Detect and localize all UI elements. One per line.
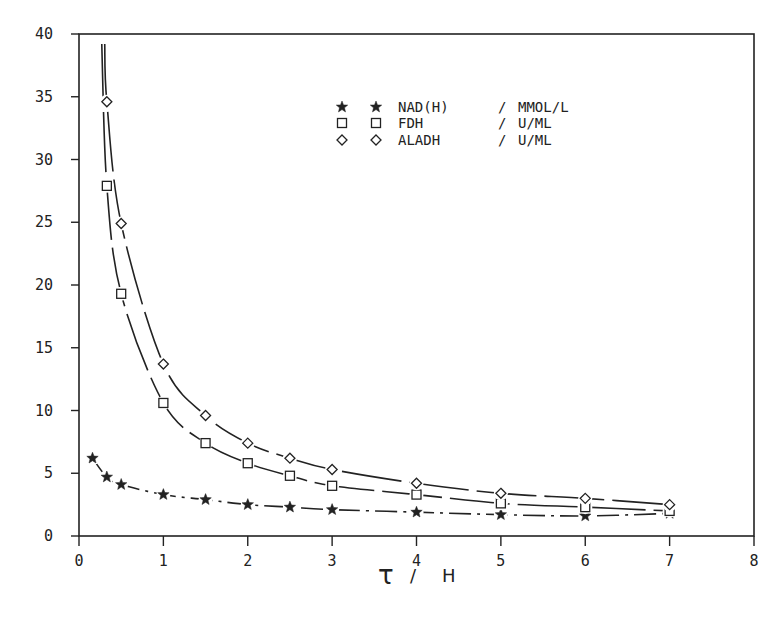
data-point-fdh [328, 481, 337, 490]
legend-separator: / [498, 115, 506, 131]
data-point-fdh [412, 490, 421, 499]
x-axis-ticks: 012345678 [74, 536, 758, 570]
data-point-fdh [117, 289, 126, 298]
legend-separator: / [498, 132, 506, 148]
y-tick-label: 5 [44, 464, 53, 482]
legend-label: FDH [398, 115, 423, 131]
y-tick-label: 15 [35, 339, 53, 357]
series-line-aladh [105, 44, 670, 505]
legend-marker-shape [370, 101, 381, 112]
legend-marker-square-icon [338, 119, 347, 128]
data-point-fdh [285, 471, 294, 480]
y-tick-label: 10 [35, 402, 53, 420]
data-point-fdh [159, 398, 168, 407]
y-tick-label: 40 [35, 25, 53, 43]
legend: NAD(H) / MMOL/L FDH / U/ML ALADH / U/ML [336, 99, 568, 148]
legend-marker-star-icon [336, 101, 347, 112]
x-axis-title-slash: / [410, 565, 417, 586]
legend-marker-shape [372, 119, 381, 128]
x-tick-label: 6 [581, 552, 590, 570]
legend-unit: U/ML [518, 132, 552, 148]
legend-marker-diamond-icon [371, 135, 381, 145]
legend-marker-diamond-icon [337, 135, 347, 145]
x-axis-title-unit: H [442, 565, 456, 586]
legend-marker-shape [337, 135, 347, 145]
legend-unit: U/ML [518, 115, 552, 131]
chart: 012345678 0510152025303540 NAD(H) / MMOL… [0, 0, 783, 626]
legend-marker-shape [371, 135, 381, 145]
legend-item-fdh: FDH / U/ML [338, 115, 552, 131]
y-tick-label: 30 [35, 151, 53, 169]
x-tick-label: 7 [665, 552, 674, 570]
legend-separator: / [498, 99, 506, 115]
legend-marker-shape [338, 119, 347, 128]
y-tick-label: 20 [35, 276, 53, 294]
y-tick-label: 25 [35, 213, 53, 231]
y-axis-ticks: 0510152025303540 [35, 25, 79, 545]
x-axis-title-symbol: τ [378, 560, 394, 590]
y-tick-label: 0 [44, 527, 53, 545]
y-tick-label: 35 [35, 88, 53, 106]
x-tick-label: 5 [496, 552, 505, 570]
legend-item-nadh: NAD(H) / MMOL/L [336, 99, 568, 115]
series-line-fdh [102, 44, 670, 511]
data-point-fdh [102, 181, 111, 190]
x-tick-label: 2 [243, 552, 252, 570]
legend-marker-star-icon [370, 101, 381, 112]
x-tick-label: 0 [74, 552, 83, 570]
data-point-fdh [201, 439, 210, 448]
legend-label: ALADH [398, 132, 440, 148]
data-point-fdh [243, 459, 252, 468]
legend-marker-square-icon [372, 119, 381, 128]
legend-unit: MMOL/L [518, 99, 569, 115]
legend-marker-shape [336, 101, 347, 112]
series-curves [93, 44, 670, 516]
x-tick-label: 3 [328, 552, 337, 570]
x-tick-label: 8 [749, 552, 758, 570]
legend-label: NAD(H) [398, 99, 449, 115]
legend-item-aladh: ALADH / U/ML [337, 132, 552, 148]
x-tick-label: 1 [159, 552, 168, 570]
series-markers [86, 95, 677, 523]
